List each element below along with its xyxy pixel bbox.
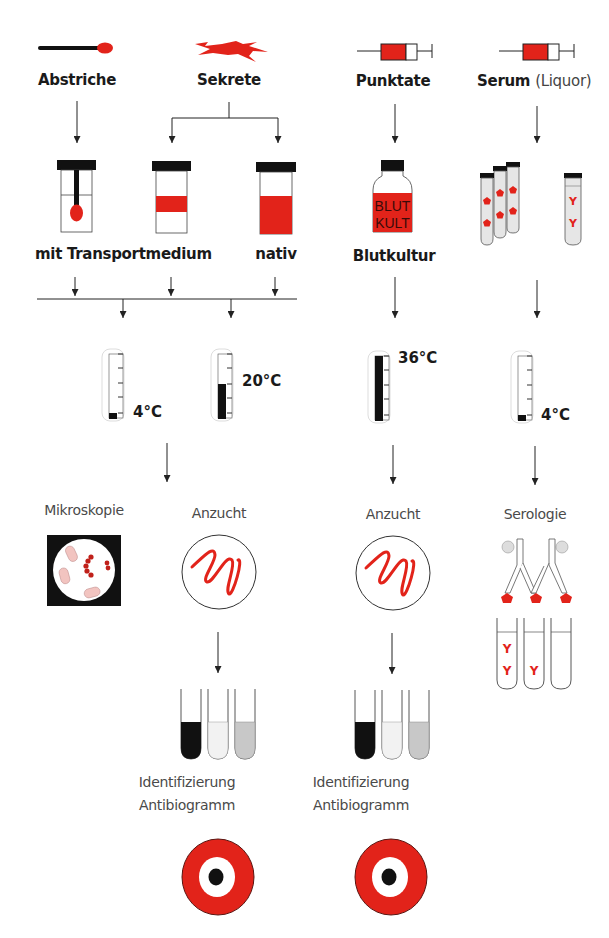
- serology-antibody-icon: [501, 539, 572, 603]
- thermometer-icon: [511, 351, 533, 423]
- thermometer-icon: [368, 351, 390, 423]
- flow-arrows: [167, 443, 535, 485]
- bottle-label-line1: BLUT: [375, 198, 411, 214]
- temperature-4c-left: 4°C: [133, 405, 162, 420]
- label-mikroskopie: Mikroskopie: [44, 503, 124, 517]
- secretion-splash-icon: [195, 41, 268, 62]
- transport-tube-icon: [57, 160, 96, 232]
- label-anzucht-left: Anzucht: [192, 506, 247, 520]
- specimen-workflow-diagram: BLUT KULT Y Y: [0, 0, 609, 938]
- microscopy-icon: [47, 535, 121, 606]
- temperature-4c-right: 4°C: [541, 408, 570, 423]
- antibody-icon: Y: [502, 664, 512, 678]
- medium-tube-icon: [152, 161, 191, 233]
- serum-tubes-antigen-icon: [480, 162, 520, 245]
- label-serum: Serum (Liquor): [477, 74, 591, 89]
- flow-arrows: [77, 101, 537, 143]
- syringe-icon: [499, 44, 574, 60]
- syringe-icon: [357, 44, 432, 60]
- antibody-icon: Y: [529, 664, 539, 678]
- label-punktate: Punktate: [356, 74, 431, 89]
- label-blutkultur: Blutkultur: [353, 249, 435, 264]
- antibody-icon: Y: [502, 642, 512, 656]
- native-tube-icon: [256, 162, 296, 234]
- serum-tube-antibody-icon: Y Y: [564, 173, 582, 245]
- merge-connector: [37, 277, 537, 318]
- antibody-icon: Y: [568, 217, 578, 230]
- label-transportmedium: mit Transportmedium: [35, 247, 212, 262]
- label-antibiogramm-right: Antibiogramm: [313, 798, 409, 812]
- serology-tubes-icon: Y Y Y: [497, 618, 571, 689]
- antibiogram-disc-icon: [182, 839, 254, 915]
- label-serum-liquor: (Liquor): [535, 72, 591, 90]
- label-identifizierung-right: Identifizierung: [313, 775, 409, 789]
- flow-arrows: [218, 632, 392, 674]
- biochemical-tubes-icon: [181, 689, 255, 759]
- biochemical-tubes-icon: [355, 690, 429, 759]
- thermometer-icon: [211, 349, 233, 421]
- antibiogram-disc-icon: [355, 839, 427, 915]
- label-serum-main: Serum: [477, 72, 530, 90]
- temperature-20c: 20°C: [242, 374, 281, 389]
- label-anzucht-right: Anzucht: [366, 507, 421, 521]
- label-abstriche: Abstriche: [38, 73, 116, 88]
- antibody-icon: Y: [568, 195, 578, 208]
- label-nativ: nativ: [255, 247, 296, 262]
- label-serologie: Serologie: [504, 507, 567, 521]
- swab-icon: [40, 43, 113, 54]
- culture-plate-icon: [182, 535, 256, 609]
- temperature-36c: 36°C: [398, 351, 437, 366]
- bottle-label-line2: KULT: [375, 215, 410, 231]
- blood-culture-bottle-icon: BLUT KULT: [373, 160, 412, 232]
- thermometer-icon: [102, 349, 124, 421]
- label-antibiogramm-left: Antibiogramm: [139, 798, 235, 812]
- label-sekrete: Sekrete: [197, 73, 261, 88]
- culture-plate-icon: [356, 536, 430, 610]
- label-identifizierung-left: Identifizierung: [139, 775, 235, 789]
